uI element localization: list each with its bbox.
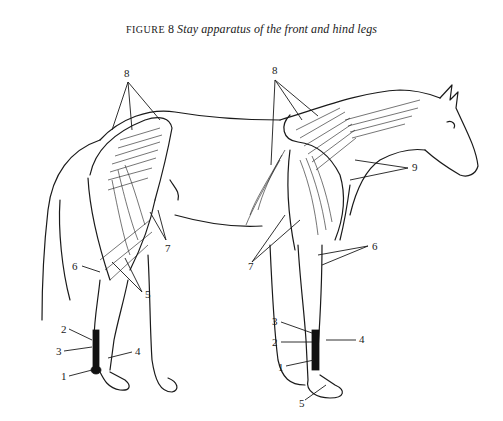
label-front-1: 1 [278,361,284,373]
label-hind-7: 7 [165,242,171,254]
label-front-7: 7 [248,260,254,272]
label-front-2: 2 [272,336,278,348]
label-hind-3: 3 [56,345,62,357]
hind-leg-labels: 8 7 6 5 4 3 2 1 [56,67,171,382]
front-leg-labels: 8 9 7 6 4 3 2 1 5 [248,64,418,409]
label-front-5: 5 [299,397,305,409]
label-front-4: 4 [359,333,365,345]
label-hind-8: 8 [124,67,130,79]
label-front-3: 3 [272,315,278,327]
label-hind-6: 6 [72,260,78,272]
label-front-8: 8 [272,64,278,76]
label-hind-1: 1 [61,370,67,382]
hind-leg-muscles [88,118,177,392]
label-front-6: 6 [372,240,378,252]
label-front-9: 9 [412,161,418,173]
label-hind-5: 5 [145,288,151,300]
label-hind-4: 4 [135,345,141,357]
horse-stay-apparatus-illustration: 8 7 6 5 4 3 2 1 8 9 7 6 4 3 2 1 [0,0,503,421]
label-hind-2: 2 [61,323,67,335]
